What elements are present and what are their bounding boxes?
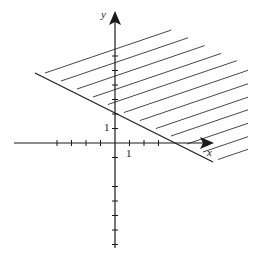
hatch-line bbox=[93, 53, 221, 97]
hatch-line bbox=[45, 30, 171, 73]
hatch-line bbox=[77, 46, 205, 89]
hatch-line bbox=[171, 110, 248, 136]
hatch-line bbox=[124, 70, 248, 112]
hatch-line bbox=[108, 61, 237, 105]
hatch-line bbox=[61, 38, 188, 81]
x-unit-label: 1 bbox=[126, 147, 132, 159]
y-axis-label: y bbox=[100, 8, 106, 20]
hatch-line bbox=[187, 123, 248, 144]
x-axis-label: x bbox=[206, 146, 212, 158]
inequality-graph: x y 1 1 bbox=[0, 0, 259, 258]
hatch-line bbox=[218, 149, 248, 159]
hatch-lines bbox=[45, 30, 248, 160]
y-unit-label: 1 bbox=[104, 121, 110, 133]
hatch-line bbox=[156, 97, 248, 128]
y-axis bbox=[109, 11, 121, 248]
